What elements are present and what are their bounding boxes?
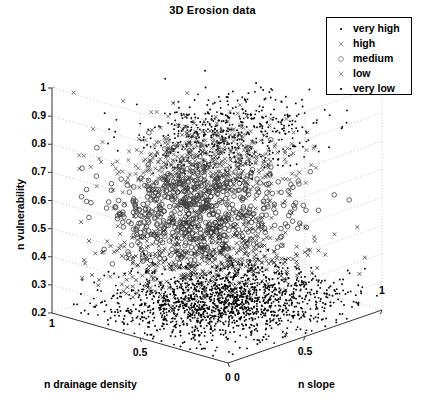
y-tick-label: 0.3 <box>6 278 46 290</box>
legend-item-high[interactable]: high <box>327 36 413 51</box>
cross-marker-icon <box>331 66 351 81</box>
legend-item-very-low[interactable]: very low <box>327 81 413 96</box>
legend: very highhighmediumlowvery low <box>326 17 412 95</box>
circle-marker-icon <box>331 51 351 66</box>
dot-marker-icon <box>331 81 351 96</box>
y-tick-label: 0.9 <box>6 109 46 121</box>
z-tick-label: 0.5 <box>285 345 325 357</box>
y-tick-label: 1 <box>6 81 46 93</box>
dot-marker-icon <box>331 21 351 36</box>
x-tick-label: 0.5 <box>120 346 160 358</box>
z-axis-title: n slope <box>298 378 335 390</box>
legend-label: low <box>353 67 371 79</box>
y-tick-label: 0.8 <box>6 137 46 149</box>
z-tick-label: 1 <box>362 284 402 296</box>
chart-canvas: 3D Erosion data 0.20.30.40.50.60.70.80.9… <box>0 0 425 403</box>
y-tick-label: 0.4 <box>6 250 46 262</box>
legend-item-medium[interactable]: medium <box>327 51 413 66</box>
z-tick-label: 0 <box>217 371 257 383</box>
y-axis-title: n vulnerability <box>14 179 26 250</box>
x-axis-title: n drainage density <box>44 378 137 390</box>
y-tick-label: 0.6 <box>6 194 46 206</box>
legend-label: very low <box>353 82 395 94</box>
cross-marker-icon <box>331 36 351 51</box>
legend-item-very-high[interactable]: very high <box>327 21 413 36</box>
x-tick-label: 1 <box>32 317 72 329</box>
legend-label: medium <box>353 52 393 64</box>
legend-item-low[interactable]: low <box>327 66 413 81</box>
data-points <box>72 70 378 357</box>
legend-label: very high <box>353 22 400 34</box>
legend-label: high <box>353 37 375 49</box>
y-tick-label: 0.7 <box>6 165 46 177</box>
y-tick-label: 0.5 <box>6 222 46 234</box>
